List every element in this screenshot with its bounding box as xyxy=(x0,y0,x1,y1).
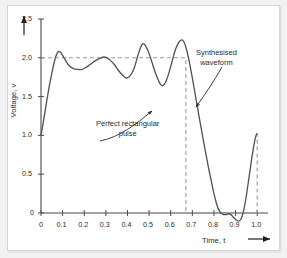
y-tick-label: 2.5 xyxy=(22,14,32,23)
x-tick-label: 0.3 xyxy=(100,220,110,229)
x-tick-label: 0.6 xyxy=(165,220,175,229)
annotation-synthesised-waveform: Synthesised waveform xyxy=(196,48,237,67)
annotation-wave-line2: waveform xyxy=(196,58,237,68)
x-tick-label: 0.2 xyxy=(78,220,88,229)
x-tick-label: 0.8 xyxy=(208,220,218,229)
x-tick-label: 0.7 xyxy=(186,220,196,229)
waveform-annotation-arrow-icon xyxy=(196,67,222,107)
y-tick-label: 2.0 xyxy=(22,53,32,62)
figure-container: Voltage, v Time, t 00.51.01.52.02.500.10… xyxy=(0,0,287,258)
y-tick-label: 1.5 xyxy=(22,92,32,101)
y-axis-title: Voltage, v xyxy=(9,71,18,131)
x-tick-label: 0.5 xyxy=(143,220,153,229)
y-tick-label: 0 xyxy=(30,208,34,217)
annotation-pulse-line2: pulse xyxy=(96,129,159,139)
x-axis-title: Time, t xyxy=(202,236,225,245)
x-tick-label: 0 xyxy=(39,220,43,229)
annotation-pulse-line1: Perfect rectangular xyxy=(96,119,159,129)
y-tick-label: 1.0 xyxy=(22,130,32,139)
x-tick-label: 0.9 xyxy=(230,220,240,229)
annotation-wave-line1: Synthesised xyxy=(196,48,237,58)
y-tick-label: 0.5 xyxy=(22,169,32,178)
x-tick-label: 0.1 xyxy=(57,220,67,229)
x-tick-label: 0.4 xyxy=(121,220,131,229)
x-tick-label: 1.0 xyxy=(251,220,261,229)
annotation-perfect-rectangular-pulse: Perfect rectangular pulse xyxy=(96,119,159,138)
